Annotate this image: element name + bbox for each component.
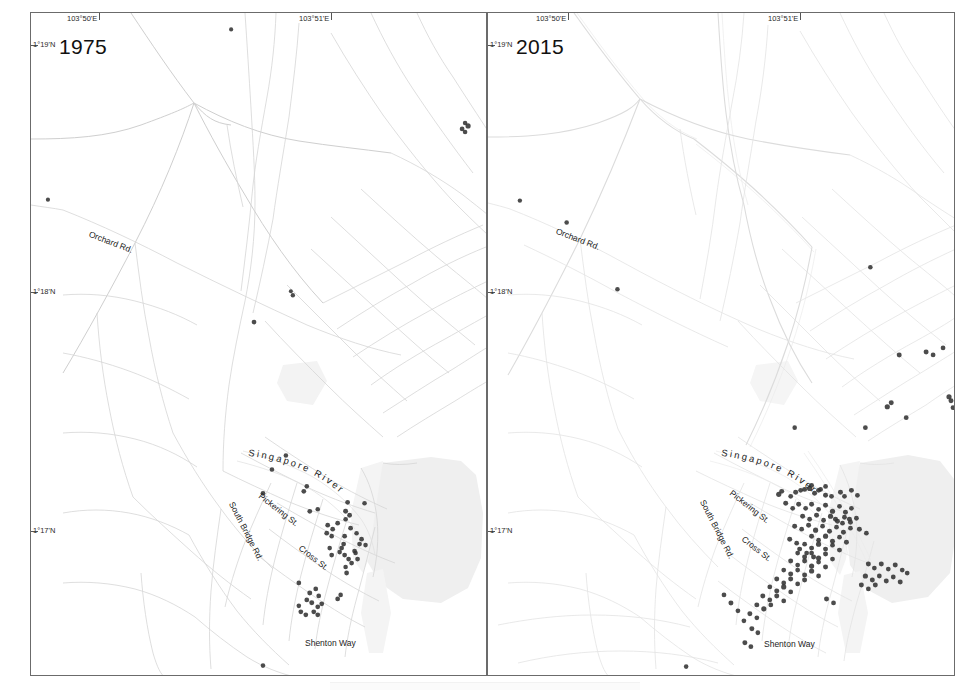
year-label-1975: 1975 (59, 35, 107, 59)
lon-label-103-50: 103°50'E (67, 14, 97, 23)
lon-tick-103-50 (99, 13, 100, 20)
lat-label-1-19-right: 1°19'N (490, 40, 512, 49)
svg-text:Singapore River: Singapore River (248, 447, 347, 496)
river-label-1975: Singapore River (31, 13, 486, 675)
lon-tick-103-51-right (800, 13, 801, 20)
map-panel-2015[interactable]: .r { fill:none; stroke:#e3e3e3; stroke-w… (487, 12, 955, 676)
lat-label-1-19: 1°19'N (33, 40, 55, 49)
map-panel-1975[interactable]: .rd { fill:none; stroke:#d6d6d6; stroke-… (30, 12, 487, 676)
lat-label-1-17-right: 1°17'N (490, 526, 512, 535)
svg-text:Singapore River: Singapore River (721, 447, 820, 496)
lat-label-1-18: 1°18'N (33, 287, 55, 296)
lon-label-103-51: 103°51'E (299, 14, 329, 23)
lon-tick-103-50-right (568, 13, 569, 20)
year-label-2015: 2015 (516, 35, 564, 59)
river-label-2015: Singapore River (488, 13, 954, 675)
scalebar-strip (330, 682, 640, 690)
lat-label-1-18-right: 1°18'N (490, 287, 512, 296)
lat-label-1-17: 1°17'N (33, 526, 55, 535)
lon-label-103-50-right: 103°50'E (536, 14, 566, 23)
lon-label-103-51-right: 103°51'E (768, 14, 798, 23)
figure-root: .rd { fill:none; stroke:#d6d6d6; stroke-… (0, 0, 974, 691)
lon-tick-103-51 (331, 13, 332, 20)
